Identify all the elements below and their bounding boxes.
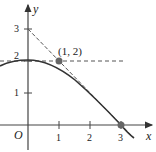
y-axis-label: y bbox=[32, 2, 39, 16]
point-1-2 bbox=[56, 58, 63, 65]
origin-label: O bbox=[14, 128, 23, 142]
x-tick-label-2: 2 bbox=[87, 132, 92, 143]
graph: y x O 1 2 3 1 2 3 (1, 2) bbox=[0, 0, 156, 152]
x-tick-label-3: 3 bbox=[118, 132, 123, 143]
y-tick-label-3: 3 bbox=[14, 23, 19, 34]
y-tick-label-1: 1 bbox=[14, 87, 19, 98]
x-axis-label: x bbox=[145, 129, 152, 143]
point-annotation: (1, 2) bbox=[58, 45, 82, 58]
curve bbox=[0, 60, 134, 138]
point-3-0 bbox=[118, 122, 125, 129]
x-tick-label-1: 1 bbox=[56, 132, 61, 143]
y-tick-label-2: 2 bbox=[14, 50, 19, 61]
